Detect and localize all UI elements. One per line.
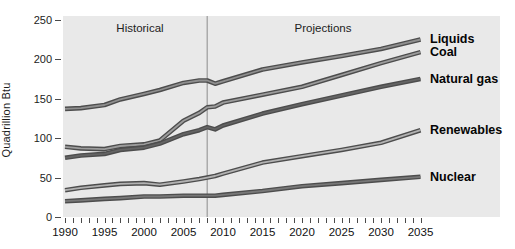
x-tick-mark-2004 [176, 218, 177, 223]
x-tick-mark-2010 [223, 218, 224, 223]
energy-consumption-chart: Quadrillion Btu Historical Projections L… [0, 0, 515, 249]
x-tick-mark-2031 [389, 218, 390, 223]
y-tick-mark-50 [55, 178, 61, 179]
x-tick-mark-2008 [207, 218, 208, 223]
y-tick-label-100: 100 [22, 132, 52, 144]
x-tick-label-2035: 2035 [401, 226, 441, 238]
x-tick-mark-1998 [128, 218, 129, 223]
x-tick-label-2005: 2005 [164, 226, 204, 238]
x-tick-mark-2026 [349, 218, 350, 223]
x-tick-mark-2003 [168, 218, 169, 223]
x-tick-mark-2022 [318, 218, 319, 223]
x-tick-mark-2025 [342, 218, 343, 223]
x-tick-mark-2013 [247, 218, 248, 223]
x-tick-mark-2001 [152, 218, 153, 223]
y-tick-mark-250 [55, 20, 61, 21]
series-line-inner-nuclear [65, 177, 421, 201]
legend-label-nuclear: Nuclear [430, 170, 476, 184]
x-tick-mark-2028 [365, 218, 366, 223]
x-tick-mark-2005 [184, 218, 185, 223]
x-tick-label-1995: 1995 [85, 226, 125, 238]
x-tick-mark-2017 [278, 218, 279, 223]
x-tick-mark-2011 [231, 218, 232, 223]
x-tick-mark-2009 [215, 218, 216, 223]
y-tick-mark-100 [55, 138, 61, 139]
x-tick-mark-2014 [255, 218, 256, 223]
y-tick-label-250: 250 [22, 14, 52, 26]
x-tick-mark-2032 [397, 218, 398, 223]
y-tick-mark-150 [55, 99, 61, 100]
y-tick-mark-0 [55, 217, 61, 218]
x-tick-label-2020: 2020 [282, 226, 322, 238]
projections-label: Projections [278, 22, 368, 34]
x-tick-mark-2015 [263, 218, 264, 223]
x-tick-mark-2019 [294, 218, 295, 223]
x-tick-mark-2016 [270, 218, 271, 223]
x-tick-mark-2012 [239, 218, 240, 223]
x-tick-mark-1993 [89, 218, 90, 223]
x-tick-mark-1994 [97, 218, 98, 223]
x-tick-mark-2029 [373, 218, 374, 223]
x-tick-mark-2000 [144, 218, 145, 223]
y-axis-title: Quadrillion Btu [0, 70, 14, 170]
y-tick-label-200: 200 [22, 53, 52, 65]
x-tick-mark-2002 [160, 218, 161, 223]
x-tick-mark-2020 [302, 218, 303, 223]
x-tick-label-2000: 2000 [124, 226, 164, 238]
legend-label-renewables: Renewables [430, 123, 502, 137]
x-tick-label-1990: 1990 [45, 226, 85, 238]
x-tick-label-2010: 2010 [203, 226, 243, 238]
y-tick-label-50: 50 [22, 172, 52, 184]
x-tick-mark-2035 [421, 218, 422, 223]
x-tick-mark-1992 [81, 218, 82, 223]
y-tick-label-0: 0 [22, 211, 52, 223]
x-tick-mark-2027 [357, 218, 358, 223]
x-tick-mark-2018 [286, 218, 287, 223]
x-tick-mark-2030 [381, 218, 382, 223]
x-tick-label-2030: 2030 [361, 226, 401, 238]
x-tick-mark-2023 [326, 218, 327, 223]
x-tick-mark-2006 [191, 218, 192, 223]
x-tick-label-2015: 2015 [243, 226, 283, 238]
y-tick-label-150: 150 [22, 93, 52, 105]
x-tick-mark-2024 [334, 218, 335, 223]
x-tick-mark-1996 [112, 218, 113, 223]
legend-label-coal: Coal [430, 45, 457, 59]
x-tick-mark-1990 [65, 218, 66, 223]
historical-label: Historical [95, 22, 185, 34]
x-tick-mark-2021 [310, 218, 311, 223]
x-tick-label-2025: 2025 [322, 226, 362, 238]
legend-label-natural-gas: Natural gas [430, 72, 498, 86]
y-tick-mark-200 [55, 59, 61, 60]
x-tick-mark-1999 [136, 218, 137, 223]
x-tick-mark-2033 [405, 218, 406, 223]
x-tick-mark-2007 [199, 218, 200, 223]
x-tick-mark-2034 [413, 218, 414, 223]
x-tick-mark-1991 [73, 218, 74, 223]
x-tick-mark-1997 [120, 218, 121, 223]
x-tick-mark-1995 [105, 218, 106, 223]
